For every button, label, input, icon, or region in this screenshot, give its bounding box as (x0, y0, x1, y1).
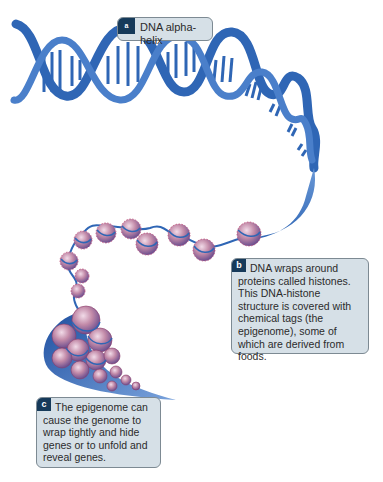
condensed-chromatin (44, 306, 176, 400)
callout-badge-a: a (118, 18, 135, 34)
callout-a-text: DNA alpha-helix (140, 21, 212, 47)
callout-a: a DNA alpha-helix (117, 17, 213, 41)
callout-c-text: The epigenome can cause the genome to wr… (43, 401, 148, 463)
callout-badge-c: c (37, 398, 51, 411)
callout-b-text: DNA wraps around proteins called histone… (238, 262, 351, 362)
callout-c: cThe epigenome can cause the genome to w… (36, 397, 161, 468)
callout-badge-b: b (232, 259, 246, 272)
callout-b: bDNA wraps around proteins called histon… (231, 258, 369, 354)
